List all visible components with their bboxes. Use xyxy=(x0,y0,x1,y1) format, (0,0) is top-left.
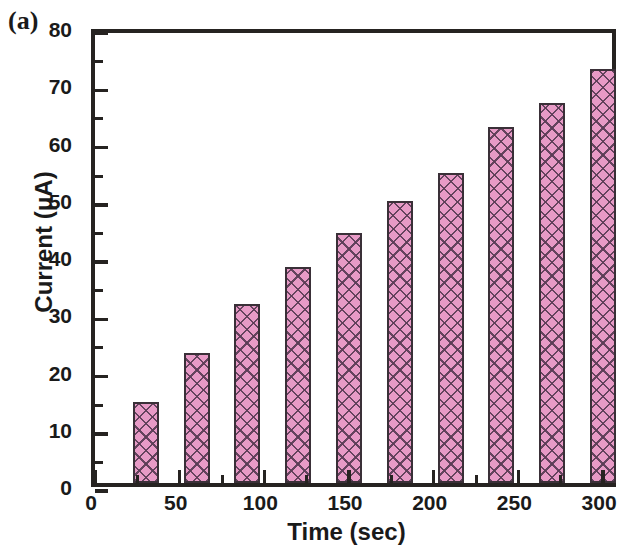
x-tick-label: 150 xyxy=(328,492,363,513)
y-tick-label: 10 xyxy=(49,420,72,441)
x-tick-major xyxy=(432,470,436,483)
y-tick-minor xyxy=(95,232,103,235)
y-tick-major xyxy=(95,432,108,436)
x-tick-label: 250 xyxy=(497,492,532,513)
x-tick-label: 300 xyxy=(582,492,617,513)
x-tick-minor xyxy=(390,475,393,483)
y-tick-minor xyxy=(95,289,103,292)
x-tick-major xyxy=(601,470,605,483)
bar xyxy=(234,304,260,483)
figure-panel-a: (a) 01020304050607080 050100150200250300… xyxy=(0,0,633,548)
x-tick-minor xyxy=(305,475,308,483)
x-tick-major xyxy=(93,470,97,483)
x-tick-minor xyxy=(136,475,139,483)
y-tick-minor xyxy=(95,117,103,120)
x-tick-label: 100 xyxy=(243,492,278,513)
x-axis-title: Time (sec) xyxy=(0,518,633,546)
bar xyxy=(539,103,565,483)
y-tick-minor xyxy=(95,404,103,407)
y-tick-minor xyxy=(95,175,103,178)
y-tick-major xyxy=(95,318,108,322)
y-tick-major xyxy=(95,146,108,150)
x-tick-label: 0 xyxy=(85,492,97,513)
y-tick-major xyxy=(95,375,108,379)
plot-area xyxy=(91,29,616,487)
x-tick-minor xyxy=(475,475,478,483)
bar xyxy=(438,173,464,483)
x-tick-major xyxy=(178,470,182,483)
y-tick-minor xyxy=(95,346,103,349)
x-tick-minor xyxy=(559,475,562,483)
x-tick-minor xyxy=(221,475,224,483)
y-axis-title: Current (μA) xyxy=(30,72,58,412)
y-tick-label: 0 xyxy=(60,477,72,498)
y-tick-major xyxy=(95,31,108,35)
y-tick-minor xyxy=(95,461,103,464)
x-tick-major xyxy=(263,470,267,483)
y-tick-minor xyxy=(95,60,103,63)
bars-layer xyxy=(95,33,612,483)
bar xyxy=(590,69,616,483)
bar xyxy=(488,127,514,483)
bar xyxy=(133,402,159,483)
y-tick-label: 80 xyxy=(49,19,72,40)
y-tick-major xyxy=(95,203,108,207)
bar xyxy=(285,267,311,483)
y-tick-major xyxy=(95,89,108,93)
bar xyxy=(387,201,413,483)
x-tick-label: 50 xyxy=(164,492,187,513)
y-tick-major xyxy=(95,260,108,264)
x-tick-major xyxy=(347,470,351,483)
x-tick-label: 200 xyxy=(412,492,447,513)
x-tick-major xyxy=(517,470,521,483)
bar xyxy=(184,353,210,483)
bar xyxy=(336,233,362,483)
